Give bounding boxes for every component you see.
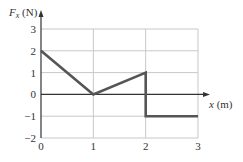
- x-axis-label: x (m): [208, 98, 233, 111]
- force-vs-position-chart: −2−101230123 Fx (N) x (m): [0, 0, 243, 162]
- y-tick-label: 0: [31, 88, 37, 100]
- x-tick-label: 3: [195, 140, 201, 152]
- y-axis-arrow-icon: [39, 10, 44, 17]
- y-tick-label: −2: [24, 132, 36, 144]
- x-tick-label: 0: [38, 140, 44, 152]
- y-tick-label: 1: [31, 67, 37, 79]
- x-tick-label: 2: [143, 140, 149, 152]
- y-axis-label: Fx (N): [8, 6, 38, 20]
- force-curve: [41, 51, 198, 116]
- x-axis-arrow-icon: [203, 92, 210, 97]
- y-tick-label: −1: [24, 110, 36, 122]
- y-tick-label: 3: [31, 23, 37, 35]
- x-tick-label: 1: [91, 140, 97, 152]
- y-tick-label: 2: [31, 45, 37, 57]
